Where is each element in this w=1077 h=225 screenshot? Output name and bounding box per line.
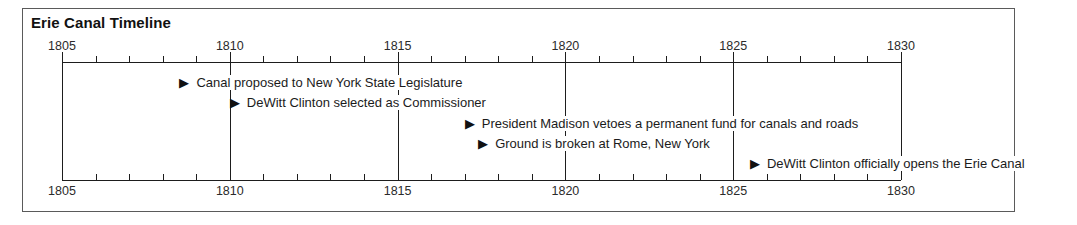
timeline-screenshot: Erie Canal Timeline 18051805181018101815… [0, 0, 1077, 225]
axis-tick-bot-1817 [465, 174, 466, 180]
year-label-bottom-1810: 1810 [216, 184, 244, 198]
axis-tick-bot-1821 [599, 174, 600, 180]
top-axis-line [62, 62, 901, 63]
timeline-event[interactable]: ▶DeWitt Clinton officially opens the Eri… [750, 155, 1027, 172]
axis-tick-top-1825 [733, 52, 734, 62]
page-title: Erie Canal Timeline [31, 14, 171, 31]
year-label-top-1810: 1810 [216, 39, 244, 53]
axis-tick-top-1812 [297, 56, 298, 62]
timeline-event[interactable]: ▶Ground is broken at Rome, New York [478, 135, 712, 152]
event-label: Canal proposed to New York State Legisla… [194, 75, 464, 90]
event-label: DeWitt Clinton officially opens the Erie… [765, 156, 1027, 171]
axis-tick-top-1830 [901, 52, 902, 62]
year-label-top-1805: 1805 [48, 39, 76, 53]
axis-tick-top-1806 [96, 56, 97, 62]
axis-tick-bot-1823 [666, 174, 667, 180]
event-marker-triangle-icon: ▶ [750, 157, 760, 170]
axis-tick-top-1813 [330, 56, 331, 62]
axis-tick-bot-1828 [834, 174, 835, 180]
axis-tick-top-1822 [633, 56, 634, 62]
event-marker-triangle-icon: ▶ [230, 96, 240, 109]
axis-tick-top-1809 [196, 56, 197, 62]
year-label-top-1825: 1825 [719, 39, 747, 53]
event-marker-triangle-icon: ▶ [465, 117, 475, 130]
year-label-bottom-1805: 1805 [48, 184, 76, 198]
axis-tick-top-1829 [867, 56, 868, 62]
axis-tick-top-1811 [263, 56, 264, 62]
axis-tick-top-1826 [767, 56, 768, 62]
year-label-bottom-1830: 1830 [887, 184, 915, 198]
axis-tick-top-1819 [532, 56, 533, 62]
axis-tick-top-1820 [565, 52, 566, 62]
axis-tick-bot-1822 [633, 174, 634, 180]
gridline-1805 [62, 62, 63, 180]
timeline-event[interactable]: ▶President Madison vetoes a permanent fu… [465, 115, 861, 132]
axis-tick-bot-1807 [129, 174, 130, 180]
event-label: Ground is broken at Rome, New York [493, 136, 712, 151]
axis-tick-bot-1808 [163, 174, 164, 180]
year-label-bottom-1825: 1825 [719, 184, 747, 198]
axis-tick-top-1821 [599, 56, 600, 62]
year-label-top-1815: 1815 [384, 39, 412, 53]
event-label: President Madison vetoes a permanent fun… [480, 116, 861, 131]
axis-tick-bot-1809 [196, 174, 197, 180]
timeline-event[interactable]: ▶Canal proposed to New York State Legisl… [179, 74, 464, 91]
event-marker-triangle-icon: ▶ [179, 76, 189, 89]
axis-tick-bot-1813 [330, 174, 331, 180]
year-label-bottom-1820: 1820 [551, 184, 579, 198]
axis-tick-top-1828 [834, 56, 835, 62]
bottom-axis-line [62, 180, 901, 181]
axis-tick-top-1818 [498, 56, 499, 62]
year-label-bottom-1815: 1815 [384, 184, 412, 198]
axis-tick-top-1814 [364, 56, 365, 62]
axis-tick-bot-1818 [498, 174, 499, 180]
axis-tick-bot-1829 [867, 174, 868, 180]
axis-tick-bot-1826 [767, 174, 768, 180]
axis-tick-bot-1812 [297, 174, 298, 180]
axis-tick-top-1824 [700, 56, 701, 62]
axis-tick-top-1823 [666, 56, 667, 62]
event-marker-triangle-icon: ▶ [478, 137, 488, 150]
axis-tick-top-1807 [129, 56, 130, 62]
axis-tick-bot-1827 [800, 174, 801, 180]
axis-tick-bot-1816 [431, 174, 432, 180]
axis-tick-top-1817 [465, 56, 466, 62]
axis-tick-top-1816 [431, 56, 432, 62]
year-label-top-1830: 1830 [887, 39, 915, 53]
axis-tick-top-1805 [62, 52, 63, 62]
axis-tick-bot-1824 [700, 174, 701, 180]
year-label-top-1820: 1820 [551, 39, 579, 53]
axis-tick-top-1815 [398, 52, 399, 62]
event-label: DeWitt Clinton selected as Commissioner [245, 95, 488, 110]
axis-tick-bot-1811 [263, 174, 264, 180]
axis-tick-top-1810 [230, 52, 231, 62]
timeline-event[interactable]: ▶DeWitt Clinton selected as Commissioner [230, 94, 488, 111]
axis-tick-bot-1806 [96, 174, 97, 180]
axis-tick-bot-1814 [364, 174, 365, 180]
timeline-plot-area: 1805180518101810181518151820182018251825… [62, 62, 901, 180]
axis-tick-bot-1819 [532, 174, 533, 180]
axis-tick-top-1827 [800, 56, 801, 62]
axis-tick-top-1808 [163, 56, 164, 62]
